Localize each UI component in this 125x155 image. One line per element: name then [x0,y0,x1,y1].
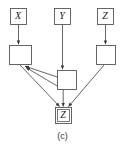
y-label-text: Y [55,11,69,21]
z-observed-label-text: Z [56,110,70,120]
z-label-text: Z [98,11,112,21]
left-plate-box [10,46,32,65]
middle-plate-box [58,71,77,90]
x-label-text: X [11,11,25,21]
right-plate-box [97,46,116,65]
figure-panel-c: X Y Z Z (c) [0,0,125,155]
figure-caption: (c) [0,131,125,141]
